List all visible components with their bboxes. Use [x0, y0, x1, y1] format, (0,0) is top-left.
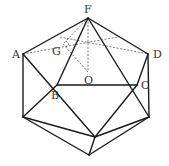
icosahedron-diagram: F A D G O B C [0, 0, 169, 166]
label-g: G [52, 46, 61, 57]
edge-fc-extended [88, 18, 149, 117]
label-f: F [84, 4, 92, 15]
label-o: O [84, 75, 93, 86]
label-d: D [153, 49, 162, 60]
label-c: C [141, 80, 149, 91]
hidden-edges [23, 18, 148, 72]
edge-ll-ml [23, 117, 95, 137]
edge-ll-bottom [23, 117, 89, 155]
segment-go [63, 44, 88, 72]
label-b: B [51, 90, 59, 101]
label-a: A [12, 49, 20, 60]
